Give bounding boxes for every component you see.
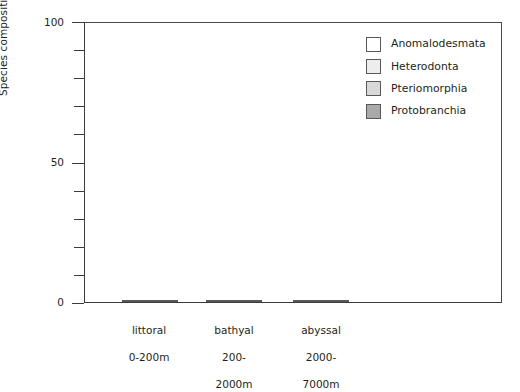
x-label-abyssal-line2: 2000-	[266, 351, 376, 365]
x-label-abyssal-line1: abyssal	[266, 324, 376, 338]
legend-item-heterodonta: Heterodonta	[366, 55, 502, 77]
y-tick-minor-60	[74, 134, 84, 135]
y-tick-major-0	[72, 303, 84, 304]
legend-swatch-heterodonta	[366, 59, 381, 74]
y-tick-minor-40	[74, 191, 84, 192]
y-tick-minor-30	[74, 219, 84, 220]
y-tick-label-100: 100	[24, 17, 64, 27]
legend-label-anomalodesmata: Anomalodesmata	[391, 38, 486, 50]
y-tick-minor-80	[74, 78, 84, 79]
legend-item-pteriomorphia: Pteriomorphia	[366, 78, 502, 100]
segment-abyssal-protobranchia	[293, 300, 349, 302]
legend-label-pteriomorphia: Pteriomorphia	[391, 83, 467, 95]
segment-bathyal-protobranchia	[206, 300, 262, 302]
legend-swatch-anomalodesmata	[366, 37, 381, 52]
legend-swatch-protobranchia	[366, 104, 381, 119]
y-tick-label-50: 50	[24, 157, 64, 167]
legend-label-heterodonta: Heterodonta	[391, 61, 459, 73]
legend-item-anomalodesmata: Anomalodesmata	[366, 33, 502, 55]
legend-label-protobranchia: Protobranchia	[391, 105, 466, 117]
y-tick-label-0: 0	[24, 297, 64, 307]
y-tick-major-100	[72, 22, 84, 23]
x-label-abyssal-line3: 7000m	[266, 378, 376, 392]
y-tick-minor-70	[74, 106, 84, 107]
segment-littoral-protobranchia	[122, 300, 178, 302]
x-label-abyssal: abyssal 2000- 7000m	[266, 310, 376, 392]
y-axis-title: Species composition (%)	[0, 0, 9, 96]
y-tick-minor-10	[74, 275, 84, 276]
y-tick-minor-90	[74, 50, 84, 51]
y-tick-major-50	[72, 163, 84, 164]
legend-item-protobranchia: Protobranchia	[366, 100, 502, 122]
legend-swatch-pteriomorphia	[366, 81, 381, 96]
legend: Anomalodesmata Heterodonta Pteriomorphia…	[366, 33, 502, 123]
plot-area: Anomalodesmata Heterodonta Pteriomorphia…	[84, 22, 502, 303]
y-tick-minor-20	[74, 247, 84, 248]
